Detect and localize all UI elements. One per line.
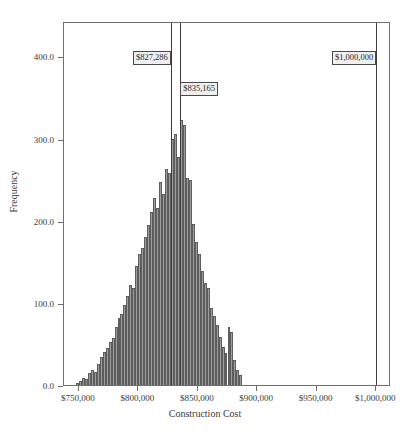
y-axis-tick-label: 200.0 [34, 217, 54, 227]
reference-line [171, 23, 172, 385]
annotation-label: $1,000,000 [332, 51, 376, 65]
y-axis-tick [58, 304, 63, 305]
x-axis-tick [375, 386, 376, 391]
reference-line [180, 23, 181, 385]
y-axis-tick-label: 400.0 [34, 52, 54, 62]
x-axis-tick-label: $1,000,000 [355, 393, 396, 404]
plot-frame [63, 22, 390, 386]
x-axis-tick [137, 386, 138, 391]
x-axis-tick-label: $800,000 [120, 393, 154, 404]
x-axis-tick-label: $850,000 [180, 393, 214, 404]
reference-line [376, 23, 377, 385]
x-axis-tick [316, 386, 317, 391]
y-axis-label: Frequency [8, 132, 19, 252]
y-axis-tick-label: 100.0 [34, 299, 54, 309]
y-axis-tick [58, 386, 63, 387]
x-axis-tick-label: $950,000 [299, 393, 333, 404]
y-axis-tick-label: 300.0 [34, 135, 54, 145]
y-axis-tick-label: 0.0 [43, 381, 54, 391]
y-axis-tick [58, 222, 63, 223]
x-axis-tick-label: $750,000 [61, 393, 95, 404]
annotation-label: $835,165 [180, 82, 218, 96]
y-axis-tick [58, 57, 63, 58]
histogram-figure: $827,286$835,165$1,000,000 $750,000$800,… [0, 0, 410, 439]
x-axis-tick [256, 386, 257, 391]
x-axis-label: Construction Cost [0, 408, 410, 419]
x-axis-tick-label: $900,000 [239, 393, 273, 404]
x-axis-tick [78, 386, 79, 391]
plot-area [64, 23, 389, 385]
x-axis-tick [197, 386, 198, 391]
y-axis-tick [58, 140, 63, 141]
annotation-label: $827,286 [133, 51, 171, 65]
histogram-bar [239, 375, 242, 385]
